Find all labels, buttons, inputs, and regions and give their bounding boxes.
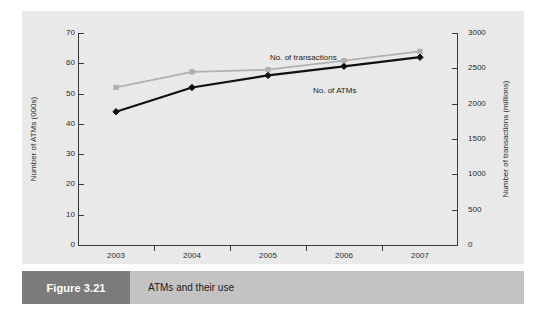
data-point-marker [266,68,270,72]
y-axis-right-tick-label: 1500 [468,135,486,143]
y-axis-right-tick-label: 1000 [468,170,486,178]
series-atms [113,54,423,115]
series-label-transactions: No. of transactions [270,54,337,62]
y-axis-right-tick-label: 2000 [468,100,486,108]
y-axis-right-tick-label: 3000 [468,29,486,37]
plot-area: 010203040506070 050010001500200025003000… [78,33,458,256]
series-plot [78,33,458,256]
y-axis-right-tick-label: 500 [468,206,481,214]
y-axis-left-tick-label: 50 [66,90,75,98]
y-axis-left-title: Number of ATMs (000s) [30,97,38,181]
y-axis-left-tick-label: 70 [66,29,75,37]
data-point-marker [418,49,422,53]
figure-container: 010203040506070 050010001500200025003000… [0,0,546,325]
figure-caption-text: ATMs and their use [148,282,234,293]
chart-panel: 010203040506070 050010001500200025003000… [22,11,524,264]
y-axis-left-tick-label: 20 [66,180,75,188]
y-axis-right-tick-label: 2500 [468,64,486,72]
figure-number-box: Figure 3.21 [22,271,130,304]
data-point-marker [342,58,346,62]
y-axis-left-tick-label: 0 [71,241,75,249]
figure-caption-bar: Figure 3.21 ATMs and their use [22,271,524,304]
y-axis-left-tick-label: 60 [66,59,75,67]
data-point-marker [341,63,347,69]
data-point-marker [265,72,271,78]
data-point-marker [190,70,194,74]
y-axis-right-title: Number of transactions (millions) [502,81,510,198]
data-point-marker [114,85,118,89]
data-point-marker [417,54,423,60]
series-label-atms: No. of ATMs [313,87,356,95]
figure-caption-box: ATMs and their use [130,271,524,304]
y-axis-right-tick-label: 0 [468,241,472,249]
series-line [116,57,420,111]
data-point-marker [189,84,195,90]
data-point-marker [113,109,119,115]
series-transactions [114,49,422,89]
figure-number-label: Figure 3.21 [46,282,105,294]
y-axis-left-tick-label: 40 [66,120,75,128]
y-axis-left-tick-label: 30 [66,150,75,158]
y-axis-left-tick-label: 10 [66,211,75,219]
